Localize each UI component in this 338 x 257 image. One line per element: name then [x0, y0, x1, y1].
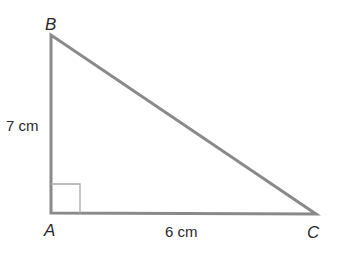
vertex-label-a: A [43, 221, 55, 240]
side-ac-measurement: 6 cm [165, 223, 198, 240]
vertex-label-b: B [45, 15, 56, 34]
triangle-abc [51, 35, 316, 214]
vertex-label-c: C [307, 223, 320, 242]
right-angle-marker [51, 184, 80, 213]
triangle-diagram: B A C 7 cm 6 cm [0, 0, 338, 257]
side-ab-measurement: 7 cm [6, 117, 39, 134]
